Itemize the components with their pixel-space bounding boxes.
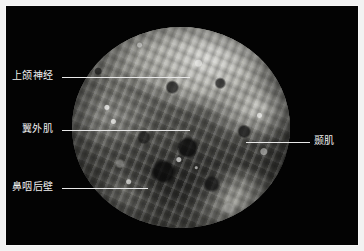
leader-line-maxillary-nerve — [62, 77, 190, 78]
endoscopic-circular-view — [72, 27, 290, 228]
annotation-label-posterior-nasopharyngeal-wall: 鼻咽后壁 — [12, 181, 54, 193]
view-vignette — [72, 27, 290, 228]
annotation-label-maxillary-nerve: 上颌神经 — [12, 70, 54, 82]
leader-line-posterior-nasopharyngeal-wall — [62, 188, 148, 189]
annotation-label-temporalis-muscle: 颞肌 — [314, 135, 335, 147]
figure-root: 上颌神经 翼外肌 鼻咽后壁 颞肌 — [0, 0, 364, 251]
annotation-label-lateral-pterygoid-muscle: 翼外肌 — [22, 123, 53, 135]
leader-line-lateral-pterygoid-muscle — [62, 130, 190, 131]
leader-line-temporalis-muscle — [246, 142, 310, 143]
image-black-field: 上颌神经 翼外肌 鼻咽后壁 颞肌 — [6, 6, 358, 245]
